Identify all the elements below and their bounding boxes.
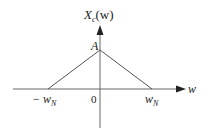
y-axis-label: Xc(w) [83,7,114,24]
y-axis-arrow-icon [97,25,104,35]
origin-label: 0 [91,93,97,105]
x-axis-label: w [188,82,196,96]
spectrum-diagram: Xc(w) A w 0 − wN wN [0,0,207,134]
left-cutoff-label: − wN [32,92,57,108]
x-axis-arrow-icon [176,86,186,93]
right-cutoff-label: wN [145,92,159,108]
peak-label: A [90,39,99,53]
